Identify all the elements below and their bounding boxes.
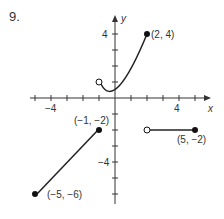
parabola [101,34,147,91]
closed-point [32,191,38,197]
label-point-m5-m6: (−5, −6) [47,189,82,200]
y-axis-label: y [120,13,127,24]
x-arrow-icon [204,95,211,101]
closed-point [144,31,150,37]
label-point-5-m2: (5, −2) [177,134,206,145]
label-point-2-4: (2, 4) [151,29,174,40]
open-point [144,127,150,133]
segment-left [37,130,98,194]
closed-point [96,127,102,133]
tick-label-y-neg4: −4 [98,157,110,168]
closed-point [192,127,198,133]
x-axis-label: x [207,103,214,114]
tick-label-x-neg4: −4 [45,103,57,114]
tick-label-y-4: 4 [102,29,108,40]
open-point [96,79,102,85]
tick-label-x-4: 4 [174,103,180,114]
y-arrow-icon [112,15,118,22]
label-point-m1-m2: (−1, −2) [74,115,109,126]
graph: x y −4 4 4 −4 (2, 4) (−1, −2) (5, −2) (−… [0,0,224,219]
